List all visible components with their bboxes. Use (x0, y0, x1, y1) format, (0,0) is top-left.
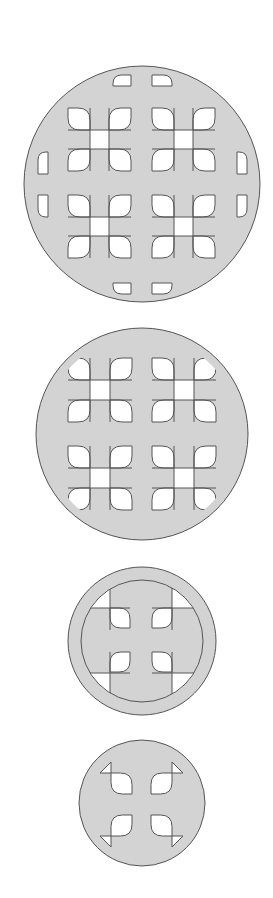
disc-3 (68, 567, 216, 715)
petal-hole (111, 815, 132, 836)
disc-2 (36, 328, 248, 540)
petal-hole (152, 446, 174, 468)
disc-4 (79, 740, 205, 866)
petal-hole (152, 108, 174, 130)
edge-petal-hole (152, 75, 172, 86)
petal-hole (193, 195, 215, 217)
petal-hole (193, 236, 215, 258)
petal-hole (152, 652, 172, 672)
petal-hole (109, 149, 131, 171)
petal-hole (68, 149, 90, 171)
edge-petal-hole (38, 195, 48, 217)
petal-hole (110, 400, 132, 422)
petal-hole (110, 446, 132, 468)
petal-hole (68, 400, 90, 422)
petal-hole (110, 488, 132, 510)
disc-outline (68, 567, 216, 715)
disc-outline (24, 66, 260, 302)
petal-hole (194, 446, 216, 468)
petal-hole (152, 149, 174, 171)
petal-hole (110, 358, 132, 380)
petal-hole (68, 446, 90, 468)
petal-hole (193, 108, 215, 130)
petal-hole (68, 195, 90, 217)
petal-hole (193, 149, 215, 171)
disc-outline (79, 740, 205, 866)
petal-hole (152, 400, 174, 422)
petal-hole (68, 236, 90, 258)
petal-hole (109, 195, 131, 217)
petal-hole (194, 400, 216, 422)
edge-petal-hole (237, 195, 247, 217)
disc-outline (36, 328, 248, 540)
edge-petal-hole (113, 75, 131, 86)
petal-hole (110, 608, 130, 628)
edge-petal-hole (113, 283, 131, 294)
disc-1 (24, 66, 260, 302)
petal-hole (152, 488, 174, 510)
edge-petal-hole (237, 152, 247, 174)
petal-hole (110, 652, 130, 672)
petal-hole (68, 108, 90, 130)
petal-hole (152, 195, 174, 217)
petal-hole (111, 773, 132, 794)
edge-petal-hole (38, 152, 48, 174)
petal-hole (151, 773, 172, 794)
petal-hole (152, 358, 174, 380)
disc-pattern-diagram (0, 0, 273, 898)
petal-hole (109, 236, 131, 258)
figure-canvas (0, 0, 273, 898)
edge-petal-hole (152, 283, 172, 294)
petal-hole (152, 236, 174, 258)
petal-hole (151, 815, 172, 836)
petal-hole (109, 108, 131, 130)
petal-hole (152, 608, 172, 628)
